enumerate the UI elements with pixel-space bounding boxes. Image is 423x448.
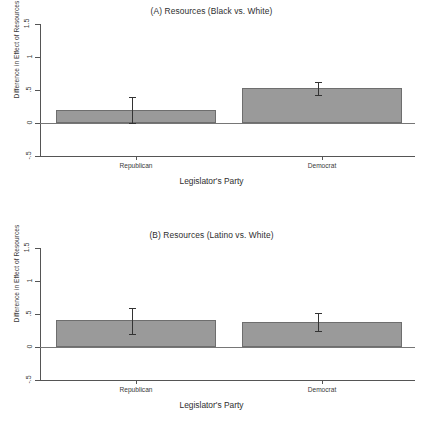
panel-a-bar-democrat[interactable] xyxy=(242,88,402,123)
panel-a-ytick-label-1: 1 xyxy=(0,53,32,60)
panel-a-ytick-label-0.5: .5 xyxy=(0,86,32,93)
panel-b-zero-line xyxy=(40,347,415,348)
panel-b-xtick-republican xyxy=(136,380,137,384)
panel-a: (A) Resources (Black vs. White) Differen… xyxy=(0,0,423,224)
panel-b-errorbar-stem-democrat xyxy=(318,313,319,331)
panel-b-xtick-democrat xyxy=(322,380,323,384)
panel-b-errorbar-cap-upper-democrat xyxy=(315,313,322,314)
panel-b-x-axis-line xyxy=(40,380,415,381)
panel-b-ytick-label-1.5: 1.5 xyxy=(0,244,32,251)
panel-a-ytick--0.5 xyxy=(35,156,40,157)
panel-b-ytick-1 xyxy=(35,281,40,282)
panel-b-ytick-1.5 xyxy=(35,248,40,249)
panel-b-bar-democrat[interactable] xyxy=(242,322,402,347)
panel-b-ytick-label-0.5: .5 xyxy=(0,310,32,317)
panel-b-y-axis-title: Difference in Effect of Resources xyxy=(13,209,20,339)
panel-b-ytick--0.5 xyxy=(35,380,40,381)
panel-a-errorbar-cap-upper-democrat xyxy=(315,82,322,83)
panel-b-title: (B) Resources (Latino vs. White) xyxy=(0,230,423,240)
panel-b-ytick-label-1: 1 xyxy=(0,277,32,284)
panel-b-y-axis-line xyxy=(40,248,41,380)
panel-a-ytick-0.5 xyxy=(35,90,40,91)
panel-a-zero-line xyxy=(40,123,415,124)
panel-b-errorbar-stem-republican xyxy=(132,308,133,334)
panel-b-xtick-label-democrat: Democrat xyxy=(308,386,337,393)
panel-a-xtick-label-democrat: Democrat xyxy=(308,162,337,169)
panel-b-errorbar-cap-lower-republican xyxy=(129,334,136,335)
panel-a-ytick-label-1.5: 1.5 xyxy=(0,20,32,27)
panel-a-ytick-1.5 xyxy=(35,24,40,25)
panel-b-errorbar-cap-upper-republican xyxy=(129,308,136,309)
panel-a-xtick-republican xyxy=(136,156,137,160)
panel-a-ytick-1 xyxy=(35,57,40,58)
panel-a-x-axis-title: Legislator's Party xyxy=(0,176,423,186)
panel-a-errorbar-cap-lower-republican xyxy=(129,123,136,124)
panel-b-errorbar-cap-lower-democrat xyxy=(315,331,322,332)
panel-a-errorbar-cap-lower-democrat xyxy=(315,95,322,96)
panel-b-xtick-label-republican: Republican xyxy=(120,386,153,393)
panel-b-ytick-label-0: 0 xyxy=(0,343,32,350)
panel-b-ytick-0.5 xyxy=(35,314,40,315)
panel-a-ytick-label-0: 0 xyxy=(0,119,32,126)
panel-a-y-axis-line xyxy=(40,24,41,156)
panel-a-errorbar-stem-democrat xyxy=(318,82,319,95)
panel-b-x-axis-title: Legislator's Party xyxy=(0,400,423,410)
panel-b: (B) Resources (Latino vs. White) Differe… xyxy=(0,224,423,448)
figure-two-panel-bar-chart: (A) Resources (Black vs. White) Differen… xyxy=(0,0,423,448)
panel-a-xtick-democrat xyxy=(322,156,323,160)
panel-b-ytick-label--0.5: -.5 xyxy=(0,376,32,383)
panel-a-errorbar-stem-republican xyxy=(132,97,133,123)
panel-a-bar-republican[interactable] xyxy=(56,110,216,123)
panel-a-x-axis-line xyxy=(40,156,415,157)
panel-a-ytick-label--0.5: -.5 xyxy=(0,152,32,159)
panel-a-xtick-label-republican: Republican xyxy=(120,162,153,169)
panel-a-errorbar-cap-upper-republican xyxy=(129,97,136,98)
panel-a-title: (A) Resources (Black vs. White) xyxy=(0,6,423,16)
panel-b-bar-republican[interactable] xyxy=(56,320,216,347)
